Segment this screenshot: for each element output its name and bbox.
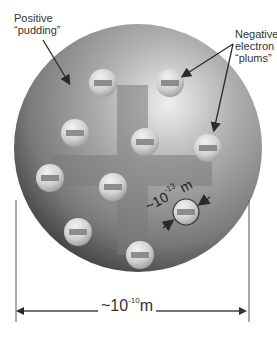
minus-icon — [177, 209, 195, 215]
minus-icon — [41, 175, 59, 181]
electron — [131, 128, 159, 156]
electron — [89, 69, 117, 97]
electron — [126, 241, 154, 269]
plum-pudding-diagram: Positive “pudding” Negative electron “pl… — [0, 0, 277, 342]
negative-electron-label: Negative electron “plums” — [235, 28, 277, 64]
minus-icon — [199, 145, 217, 151]
electron — [61, 119, 89, 147]
atom-size-label: ~10-10m — [98, 296, 156, 315]
minus-icon — [161, 80, 179, 86]
minus-icon — [104, 184, 122, 190]
minus-icon — [131, 252, 149, 258]
minus-icon — [136, 139, 154, 145]
minus-icon — [66, 130, 84, 136]
electron — [36, 164, 64, 192]
electron-measured — [173, 199, 199, 225]
minus-icon — [94, 80, 112, 86]
positive-pudding-label: Positive “pudding” — [14, 12, 60, 36]
electron — [99, 173, 127, 201]
electron — [194, 134, 222, 162]
electron — [156, 69, 184, 97]
electron — [64, 218, 92, 246]
minus-icon — [69, 229, 87, 235]
